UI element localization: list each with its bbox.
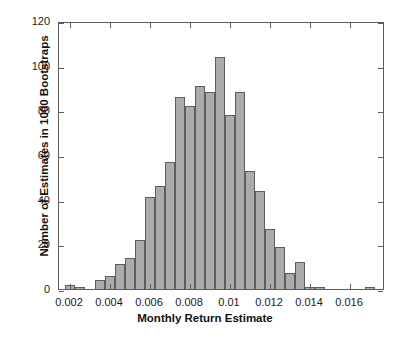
- y-axis-tick-mark: [378, 202, 383, 203]
- histogram-bar: [185, 106, 195, 289]
- y-axis-tick-mark: [378, 157, 383, 158]
- histogram-bar: [265, 229, 275, 289]
- y-axis-tick-label: 0: [0, 283, 50, 295]
- y-axis-tick-mark: [59, 23, 64, 24]
- histogram-figure: 020406080100120 0.0020.0040.0060.0080.01…: [0, 0, 410, 340]
- x-axis-tick-mark: [270, 23, 271, 28]
- y-axis-tick-mark: [59, 291, 64, 292]
- histogram-bar: [155, 186, 165, 289]
- x-axis-tick-mark: [310, 284, 311, 289]
- y-axis-tick-mark: [59, 112, 64, 113]
- x-axis-tick-mark: [350, 23, 351, 28]
- x-axis-tick-label: 0.01: [218, 296, 239, 308]
- x-axis-tick-mark: [230, 23, 231, 28]
- histogram-bar: [195, 86, 205, 289]
- y-axis-tick-mark: [59, 202, 64, 203]
- histogram-bar: [315, 287, 325, 289]
- x-axis-tick-mark: [270, 284, 271, 289]
- y-axis-tick-mark: [378, 68, 383, 69]
- x-axis-tick-label: 0.002: [55, 296, 83, 308]
- x-axis-tick-label: 0.014: [295, 296, 323, 308]
- y-axis-tick-mark: [378, 291, 383, 292]
- y-axis-tick-mark: [378, 112, 383, 113]
- x-axis-tick-label: 0.016: [335, 296, 363, 308]
- histogram-bar: [135, 240, 145, 289]
- x-axis-tick-mark: [150, 23, 151, 28]
- x-axis-tick-label: 0.006: [135, 296, 163, 308]
- histogram-bar: [115, 264, 125, 289]
- x-axis-tick-mark: [110, 284, 111, 289]
- x-axis-tick-mark: [70, 284, 71, 289]
- histogram-bar: [125, 258, 135, 289]
- x-axis-tick-mark: [70, 23, 71, 28]
- y-axis-tick-mark: [59, 246, 64, 247]
- x-axis-tick-mark: [350, 284, 351, 289]
- histogram-bar: [145, 197, 155, 289]
- x-axis-tick-mark: [190, 284, 191, 289]
- histogram-bar: [245, 171, 255, 289]
- histogram-bar: [95, 280, 105, 289]
- x-axis-tick-mark: [150, 284, 151, 289]
- histogram-bar: [205, 92, 215, 289]
- y-axis-tick-mark: [59, 68, 64, 69]
- x-axis-tick-mark: [110, 23, 111, 28]
- x-axis-tick-label: 0.004: [95, 296, 123, 308]
- y-axis-label: Number of Estimates in 1000 Bootstraps: [38, 16, 50, 276]
- histogram-bar: [275, 247, 285, 289]
- x-axis-tick-label: 0.008: [175, 296, 203, 308]
- x-axis-tick-label: 0.012: [255, 296, 283, 308]
- histogram-bar: [365, 287, 375, 289]
- histogram-bar: [285, 273, 295, 289]
- histogram-bar: [255, 191, 265, 289]
- histogram-bar: [165, 162, 175, 289]
- y-axis-tick-mark: [378, 246, 383, 247]
- histogram-bar: [75, 287, 85, 289]
- x-axis-label: Monthly Return Estimate: [0, 312, 410, 324]
- x-axis-tick-mark: [310, 23, 311, 28]
- histogram-bar: [235, 92, 245, 289]
- x-axis-tick-mark: [230, 284, 231, 289]
- histogram-bar: [215, 57, 225, 289]
- histogram-bar: [295, 262, 305, 289]
- plot-area: [58, 22, 384, 290]
- histogram-bar: [225, 115, 235, 289]
- x-axis-tick-mark: [190, 23, 191, 28]
- histogram-bar: [175, 97, 185, 289]
- y-axis-tick-mark: [59, 157, 64, 158]
- y-axis-tick-mark: [378, 23, 383, 24]
- bars-layer: [59, 23, 383, 289]
